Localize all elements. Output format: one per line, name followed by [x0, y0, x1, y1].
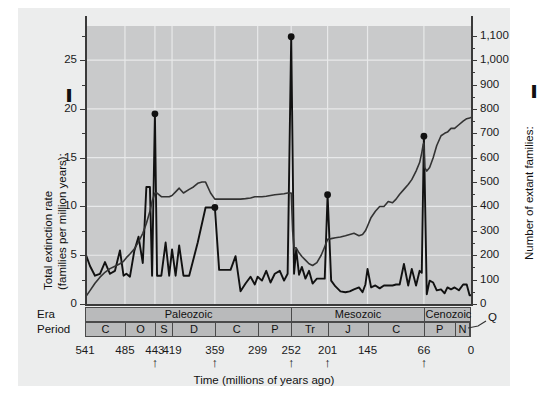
- right-tick-label: 400: [480, 200, 520, 211]
- left-axis-title-line2: (families per million years):: [56, 153, 68, 290]
- chart-svg: [85, 26, 471, 304]
- right-minor-tick: [472, 121, 475, 122]
- right-minor-tick: [472, 267, 475, 268]
- x-tick-label: 145: [346, 344, 390, 356]
- right-tick: [472, 85, 477, 86]
- right-tick-label: 200: [480, 249, 520, 260]
- right-minor-tick: [472, 243, 475, 244]
- right-tick: [472, 182, 477, 183]
- data-series: [85, 37, 471, 298]
- left-series-legend-dash: ▬: [62, 89, 72, 102]
- period-cell-o-1: O: [126, 323, 156, 336]
- right-minor-tick: [472, 292, 475, 293]
- quaternary-callout-label: Q: [488, 311, 497, 323]
- right-tick: [472, 280, 477, 281]
- right-tick: [472, 158, 477, 159]
- plot-area: [85, 26, 471, 304]
- right-minor-tick: [472, 48, 475, 49]
- right-minor-tick: [472, 219, 475, 220]
- right-tick: [472, 109, 477, 110]
- x-tick-label: 0: [449, 344, 493, 356]
- mass-extinction-arrow: ↑: [284, 358, 298, 368]
- left-minor-tick: [82, 36, 85, 37]
- right-tick-label: 500: [480, 176, 520, 187]
- right-tick: [472, 133, 477, 134]
- era-cell-mesozoic-1: Mesozoic: [292, 308, 425, 321]
- figure-panel: Total extinction rate (families per mill…: [18, 8, 510, 386]
- period-cell-c-4: C: [216, 323, 259, 336]
- period-row-label: Period: [37, 323, 70, 335]
- right-tick-label: 700: [480, 127, 520, 138]
- right-series-legend-dash: ▬: [527, 85, 537, 98]
- left-minor-tick: [82, 280, 85, 281]
- period-cell-tr-6: Tr: [292, 323, 328, 336]
- right-tick: [472, 231, 477, 232]
- right-minor-tick: [472, 170, 475, 171]
- right-minor-tick: [472, 97, 475, 98]
- right-tick: [472, 206, 477, 207]
- right-tick-label: 800: [480, 103, 520, 114]
- right-tick-label: 900: [480, 79, 520, 90]
- mass-extinction-arrow: ↑: [208, 358, 222, 368]
- period-cell-c-8: C: [369, 323, 425, 336]
- x-axis-title: Time (millions of years ago): [18, 374, 510, 386]
- right-minor-tick: [472, 72, 475, 73]
- right-tick-label: 0: [480, 298, 520, 309]
- left-tick-label: 10: [43, 200, 77, 211]
- mass-extinction-arrow: ↑: [148, 358, 162, 368]
- era-row: PaleozoicMesozoicCenozoic: [85, 307, 471, 322]
- left-tick: [80, 158, 85, 159]
- period-row: COSDCPTrJCPN: [85, 322, 471, 337]
- mass-extinction-arrow: ↑: [321, 358, 335, 368]
- right-minor-tick: [472, 145, 475, 146]
- left-axis-title: Total extinction rate (families per mill…: [42, 153, 69, 290]
- period-cell-j-7: J: [329, 323, 369, 336]
- left-minor-tick: [82, 85, 85, 86]
- left-minor-tick: [82, 231, 85, 232]
- left-tick-label: 25: [43, 54, 77, 65]
- left-tick: [80, 304, 85, 305]
- right-minor-tick: [472, 194, 475, 195]
- right-tick: [472, 255, 477, 256]
- right-tick: [472, 304, 477, 305]
- period-cell-p-5: P: [259, 323, 293, 336]
- right-axis-title-text: Number of extant families:: [523, 126, 535, 260]
- left-tick: [80, 60, 85, 61]
- era-row-label: Era: [37, 308, 55, 320]
- left-minor-tick: [82, 133, 85, 134]
- x-tick-label: 541: [63, 344, 107, 356]
- period-cell-c-0: C: [86, 323, 126, 336]
- left-tick-label: 15: [43, 152, 77, 163]
- left-axis-line: [85, 16, 87, 306]
- era-cell-cenozoic-2: Cenozoic: [425, 308, 472, 321]
- right-tick-label: 300: [480, 225, 520, 236]
- right-tick-label: 1,100: [480, 30, 520, 41]
- right-tick: [472, 60, 477, 61]
- x-axis-line: [85, 304, 473, 306]
- left-tick-label: 5: [43, 249, 77, 260]
- left-tick-label: 20: [43, 103, 77, 114]
- right-tick-label: 600: [480, 152, 520, 163]
- left-minor-tick: [82, 182, 85, 183]
- left-tick: [80, 206, 85, 207]
- right-axis-title: Number of extant families:: [523, 126, 537, 260]
- mass-extinction-arrow: ↑: [417, 358, 431, 368]
- period-cell-s-2: S: [156, 323, 173, 336]
- period-cell-d-3: D: [173, 323, 216, 336]
- right-tick: [472, 36, 477, 37]
- left-tick: [80, 255, 85, 256]
- left-tick: [80, 109, 85, 110]
- right-tick-label: 100: [480, 274, 520, 285]
- geologic-timescale-band: PaleozoicMesozoicCenozoic COSDCPTrJCPN: [85, 307, 471, 337]
- right-tick-label: 1,000: [480, 54, 520, 65]
- period-cell-p-9: P: [425, 323, 456, 336]
- era-cell-paleozoic-0: Paleozoic: [86, 308, 292, 321]
